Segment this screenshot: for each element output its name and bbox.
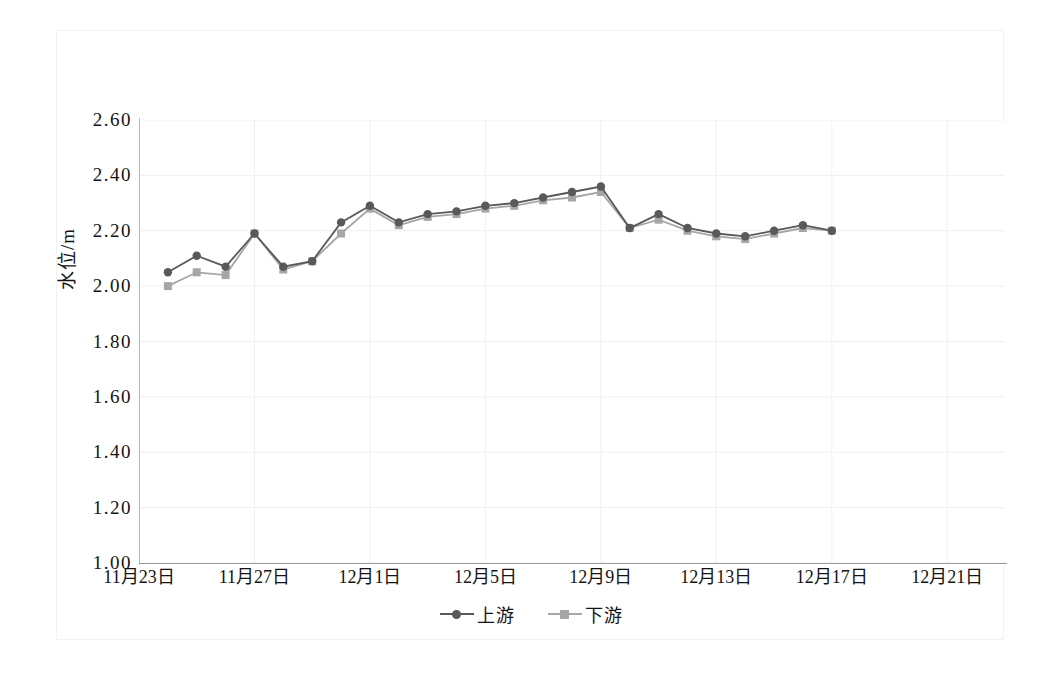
y-axis-tick-label: 2.60 [12, 110, 132, 129]
legend-label: 下游 [585, 601, 622, 627]
legend-circle-marker-icon [440, 607, 474, 621]
legend-entry[interactable]: 上游 [440, 601, 514, 627]
y-axis-tick-label: 2.40 [12, 165, 132, 184]
data-series-layer [139, 120, 1005, 563]
x-axis-tick-labels: 11月23日11月27日12月1日12月5日12月9日12月13日12月17日1… [0, 566, 1062, 596]
x-axis-tick-label: 12月13日 [680, 566, 752, 588]
chart-page: 2.602.402.202.001.801.601.401.201.00 水位/… [0, 0, 1062, 680]
plot-area [139, 120, 1005, 563]
x-axis-tick-label: 12月1日 [338, 566, 401, 588]
y-axis-tick-label: 1.60 [12, 387, 132, 406]
x-axis-tick-label: 11月23日 [103, 566, 174, 588]
y-axis-tick-label: 1.80 [12, 332, 132, 351]
x-axis-line [139, 563, 1007, 564]
legend-entry[interactable]: 下游 [548, 601, 622, 627]
chart-legend: 上游下游 [0, 601, 1062, 627]
x-axis-tick-label: 12月5日 [454, 566, 517, 588]
legend-square-marker-icon [548, 607, 582, 621]
legend-label: 上游 [477, 601, 514, 627]
x-axis-tick-label: 11月27日 [219, 566, 290, 588]
y-axis-title: 水位/m [52, 228, 79, 290]
x-axis-tick-label: 12月9日 [569, 566, 632, 588]
water-level-line-chart: 2.602.402.202.001.801.601.401.201.00 水位/… [0, 0, 1062, 680]
y-axis-line [139, 118, 140, 565]
y-axis-tick-label: 1.20 [12, 498, 132, 517]
x-axis-tick-label: 12月21日 [911, 566, 983, 588]
y-axis-tick-label: 1.40 [12, 442, 132, 461]
x-axis-tick-label: 12月17日 [796, 566, 868, 588]
